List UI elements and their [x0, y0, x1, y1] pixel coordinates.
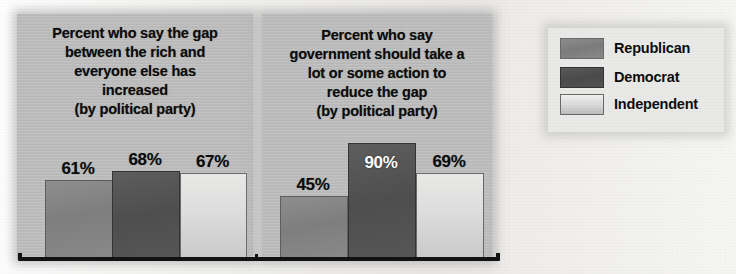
bar-panel2-republican [280, 196, 348, 260]
bar-panel1-republican [45, 180, 113, 260]
legend-item-independent: Independent [560, 93, 698, 115]
bar-label-panel2-democrat: 90% [348, 153, 414, 173]
chart-panel-gap-increased: Percent who say the gap between the rich… [17, 14, 253, 260]
legend-label-independent: Independent [614, 96, 698, 112]
panel-2-title-line-2: government should take a [262, 45, 492, 64]
chart-legend: Republican Democrat Independent [548, 28, 724, 132]
bar-label-panel1-democrat: 68% [112, 150, 178, 170]
axis-tick-center [255, 254, 258, 259]
bar-panel2-independent [416, 173, 484, 260]
legend-label-republican: Republican [614, 40, 690, 56]
panel-2-title: Percent who say government should take a… [262, 26, 492, 121]
bar-label-panel2-republican: 45% [280, 175, 346, 195]
panel-1-title-line-5: (by political party) [17, 100, 253, 119]
independent-swatch-icon [560, 94, 604, 115]
panel-1-title-line-1: Percent who say the gap [17, 24, 253, 43]
bar-label-panel1-independent: 67% [180, 152, 245, 172]
bar-panel1-democrat [112, 171, 180, 260]
panel-1-title-line-4: increased [17, 81, 253, 100]
axis-tick-right [496, 253, 500, 260]
panel-2-title-line-3: lot or some action to [262, 64, 492, 83]
chart-panel-government-action: Percent who say government should take a… [262, 14, 492, 260]
bar-panel1-independent [180, 173, 247, 260]
legend-item-republican: Republican [560, 37, 690, 59]
axis-tick-left [18, 253, 22, 260]
legend-item-democrat: Democrat [560, 66, 679, 88]
legend-label-democrat: Democrat [614, 69, 679, 85]
democrat-swatch-icon [560, 67, 604, 88]
bar-label-panel1-republican: 61% [45, 159, 111, 179]
panel-2-title-line-4: reduce the gap [262, 83, 492, 102]
republican-swatch-icon [560, 38, 604, 59]
panel-2-title-line-5: (by political party) [262, 102, 492, 121]
panel-1-title: Percent who say the gap between the rich… [17, 24, 253, 119]
panel-1-title-line-3: everyone else has [17, 62, 253, 81]
axis-baseline [18, 257, 500, 261]
panel-1-title-line-2: between the rich and [17, 43, 253, 62]
bar-label-panel2-independent: 69% [416, 152, 482, 172]
panel-2-title-line-1: Percent who say [262, 26, 492, 45]
